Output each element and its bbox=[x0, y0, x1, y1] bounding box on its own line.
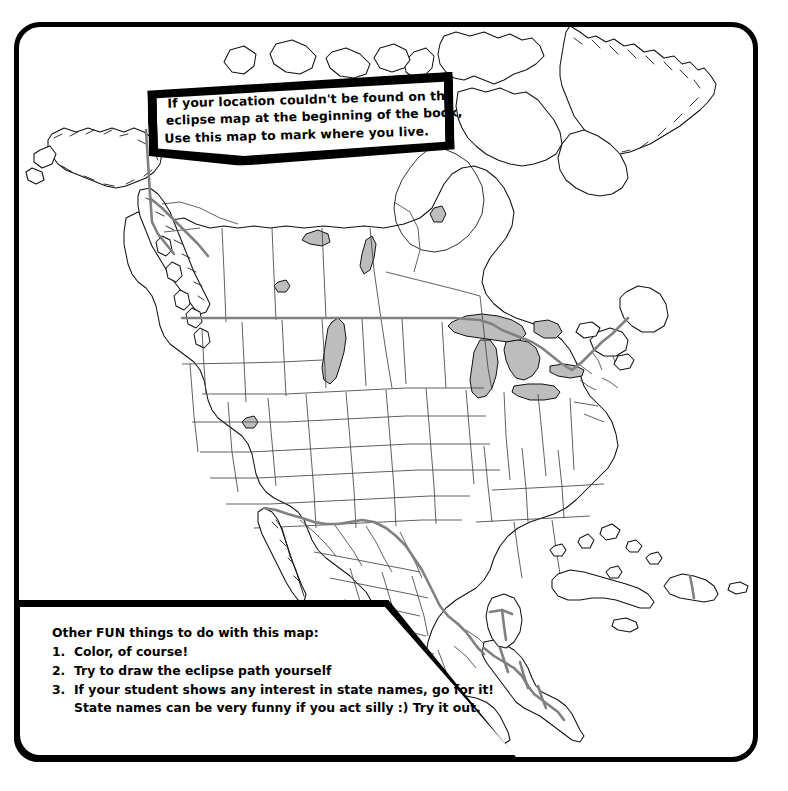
fun-heading: Other FUN things to do with this map: bbox=[52, 624, 494, 643]
bottom-callout-text: Other FUN things to do with this map: 1.… bbox=[52, 624, 494, 718]
fun-item-3-text: If your student shows any interest in st… bbox=[74, 681, 494, 700]
fun-item-1: 1. Color, of course! bbox=[52, 643, 494, 662]
fun-item-2-text: Try to draw the eclipse path yourself bbox=[74, 662, 331, 681]
newfoundland bbox=[620, 286, 668, 332]
fun-item-2: 2. Try to draw the eclipse path yourself bbox=[52, 662, 494, 681]
alaska-outline bbox=[48, 128, 162, 188]
fun-item-3-number: 3. bbox=[52, 681, 74, 700]
instruction-callout: If your location couldn't be found on th… bbox=[147, 72, 455, 169]
callout-text: If your location couldn't be found on th… bbox=[167, 87, 440, 147]
cuba bbox=[552, 570, 654, 608]
fun-item-1-text: Color, of course! bbox=[74, 643, 188, 662]
baja-california bbox=[258, 508, 306, 602]
worksheet-page: If your location couldn't be found on th… bbox=[0, 0, 788, 791]
fun-item-1-number: 1. bbox=[52, 643, 74, 662]
fun-item-2-number: 2. bbox=[52, 662, 74, 681]
fun-activities-callout: Other FUN things to do with this map: 1.… bbox=[14, 600, 520, 762]
arctic-islands bbox=[438, 32, 544, 84]
fun-item-3: 3. If your student shows any interest in… bbox=[52, 681, 494, 700]
jamaica bbox=[612, 618, 638, 632]
puerto-rico bbox=[728, 582, 748, 594]
bahamas-1 bbox=[578, 534, 594, 548]
fun-item-3-continuation: State names can be very funny if you act… bbox=[52, 699, 494, 718]
